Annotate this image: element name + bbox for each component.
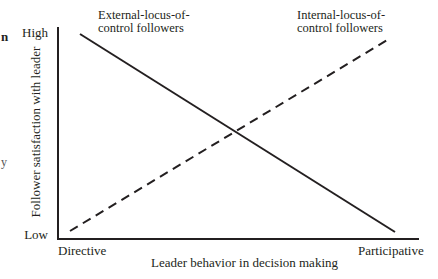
y-axis-label: Follower satisfaction with leader xyxy=(28,47,44,218)
chart-plot-area xyxy=(0,0,438,279)
y-tick-high: High xyxy=(8,25,48,41)
external-locus-label-line2: control followers xyxy=(98,22,190,35)
external-locus-line xyxy=(80,34,395,232)
internal-locus-label-line2: control followers xyxy=(297,22,385,35)
internal-locus-label: Internal-locus-of- control followers xyxy=(297,9,385,35)
x-tick-directive: Directive xyxy=(58,243,106,259)
internal-locus-line xyxy=(70,39,389,231)
y-tick-low: Low xyxy=(8,227,48,243)
x-axis-label: Leader behavior in decision making xyxy=(151,255,338,271)
external-locus-label: External-locus-of- control followers xyxy=(98,9,190,35)
x-tick-participative: Participative xyxy=(358,243,424,259)
